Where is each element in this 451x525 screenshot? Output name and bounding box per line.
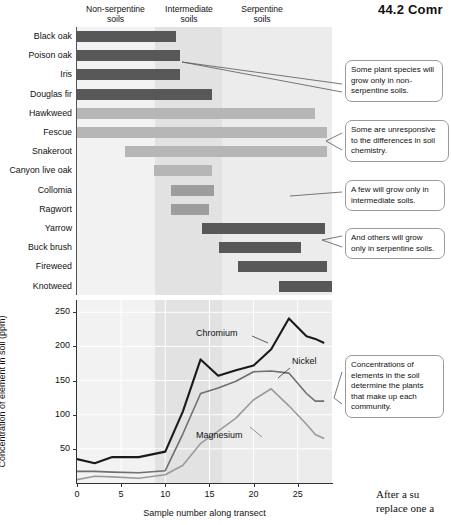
x-tick-label: 0 bbox=[67, 489, 87, 499]
species-bar-row bbox=[0, 281, 451, 292]
column-header-line-2: soils bbox=[222, 14, 302, 24]
x-tick-label: 20 bbox=[244, 489, 264, 499]
page-footer-line-1: After a su bbox=[376, 487, 451, 501]
species-range-bar bbox=[238, 261, 327, 272]
callout-intermediate: A few will grow only in intermediate soi… bbox=[345, 180, 445, 211]
column-header-line-2: soils bbox=[152, 14, 226, 24]
column-header-intermediate: Intermediate soils bbox=[152, 4, 226, 24]
callout-non-serpentine: Some plant species will grow only in non… bbox=[345, 60, 443, 102]
callout-concentrations: Concentrations of elements in the soil d… bbox=[345, 355, 444, 418]
series-label-magnesium: Magnesium bbox=[196, 430, 243, 440]
page-footer-line-2: replace one a bbox=[376, 501, 451, 515]
species-range-bar bbox=[77, 127, 327, 138]
column-header-line-1: Intermediate bbox=[152, 4, 226, 14]
y-tick-label: 100 bbox=[44, 409, 70, 419]
column-header-line-2: soils bbox=[68, 14, 163, 24]
line-series-chromium bbox=[77, 318, 324, 463]
y-tick-label: 250 bbox=[44, 306, 70, 316]
y-tick-label: 150 bbox=[44, 375, 70, 385]
x-tick-label: 5 bbox=[111, 489, 131, 499]
column-header-non-serpentine: Non-serpentine soils bbox=[68, 4, 163, 24]
species-bar-row bbox=[0, 31, 451, 42]
y-tick-label: 200 bbox=[44, 340, 70, 350]
species-axis-line bbox=[76, 27, 77, 295]
x-tick-label: 10 bbox=[155, 489, 175, 499]
species-range-bar bbox=[77, 89, 212, 100]
series-label-nickel: Nickel bbox=[292, 356, 317, 366]
species-range-bar bbox=[202, 223, 325, 234]
callout-unresponsive: Some are unresponsive to the differences… bbox=[345, 120, 449, 162]
species-range-bar bbox=[77, 108, 315, 119]
x-axis-title: Sample number along transect bbox=[77, 508, 332, 518]
species-range-bar bbox=[125, 146, 327, 157]
figure-root: 44.2 Comr After a su replace one a Non-s… bbox=[0, 0, 451, 525]
x-tick-label: 25 bbox=[288, 489, 308, 499]
x-tick-label: 15 bbox=[199, 489, 219, 499]
callout-serpentine: And others will grow only in serpentine … bbox=[345, 228, 445, 259]
y-tick-label: 50 bbox=[44, 443, 70, 453]
band-serpentine bbox=[222, 27, 332, 295]
species-range-bar bbox=[77, 50, 180, 61]
column-header-serpentine: Serpentine soils bbox=[222, 4, 302, 24]
species-range-bar bbox=[219, 242, 301, 253]
column-header-line-1: Non-serpentine bbox=[68, 4, 163, 14]
species-plot-area bbox=[77, 27, 332, 295]
page-footer: After a su replace one a bbox=[376, 487, 451, 515]
species-range-bar bbox=[154, 165, 212, 176]
species-range-bar bbox=[171, 185, 214, 196]
band-intermediate bbox=[155, 27, 222, 295]
series-label-chromium: Chromium bbox=[196, 328, 238, 338]
species-range-bar bbox=[77, 31, 176, 42]
species-bar-row bbox=[0, 165, 451, 176]
page-header: 44.2 Comr bbox=[378, 2, 443, 17]
column-header-line-1: Serpentine bbox=[222, 4, 302, 14]
species-bar-row bbox=[0, 108, 451, 119]
species-bar-row bbox=[0, 261, 451, 272]
species-range-bar bbox=[279, 281, 332, 292]
species-range-bar bbox=[171, 204, 209, 215]
species-range-bar bbox=[77, 69, 180, 80]
